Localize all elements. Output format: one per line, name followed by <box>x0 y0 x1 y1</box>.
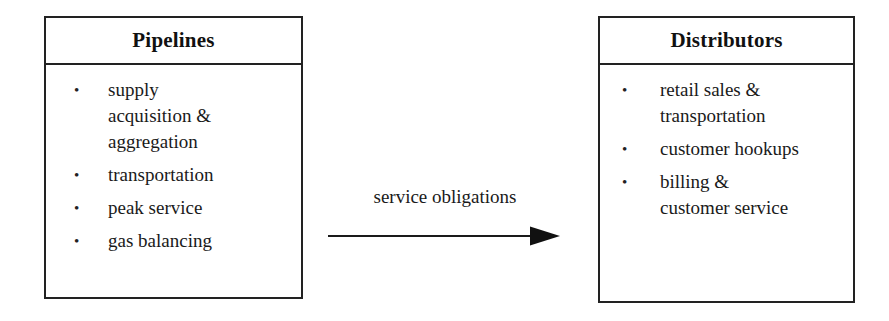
diagram-canvas: Pipelines • supply acquisition & aggrega… <box>0 0 889 321</box>
bullet-point-icon: • <box>56 195 108 221</box>
list-item: • peak service <box>56 195 291 221</box>
list-item: • customer hookups <box>610 136 843 162</box>
bullet-point-icon: • <box>56 162 108 188</box>
list-item: • retail sales & transportation <box>610 77 843 129</box>
list-item-label: retail sales & transportation <box>660 77 843 129</box>
bullet-point-icon: • <box>56 77 108 103</box>
list-item-label: gas balancing <box>108 228 291 254</box>
arrow-right-icon <box>320 223 570 249</box>
bullet-point-icon: • <box>610 169 660 195</box>
list-item: • supply acquisition & aggregation <box>56 77 291 155</box>
entity-box-pipelines: Pipelines • supply acquisition & aggrega… <box>44 16 303 299</box>
list-item-label: supply acquisition & aggregation <box>108 77 291 155</box>
entity-box-distributors: Distributors • retail sales & transporta… <box>598 16 855 303</box>
bullet-point-icon: • <box>610 136 660 162</box>
list-item-label: billing & customer service <box>660 169 843 221</box>
list-item: • transportation <box>56 162 291 188</box>
bullet-list-pipelines: • supply acquisition & aggregation • tra… <box>56 77 291 254</box>
entity-body-distributors: • retail sales & transportation • custom… <box>600 65 853 301</box>
list-item-label: transportation <box>108 162 291 188</box>
list-item: • billing & customer service <box>610 169 843 221</box>
list-item: • gas balancing <box>56 228 291 254</box>
entity-title-distributors: Distributors <box>600 18 853 65</box>
bullet-list-distributors: • retail sales & transportation • custom… <box>610 77 843 221</box>
bullet-point-icon: • <box>56 228 108 254</box>
connector-service-obligations: service obligations <box>320 185 570 255</box>
connector-label: service obligations <box>320 185 570 209</box>
entity-title-pipelines: Pipelines <box>46 18 301 65</box>
bullet-point-icon: • <box>610 77 660 103</box>
list-item-label: peak service <box>108 195 291 221</box>
list-item-label: customer hookups <box>660 136 843 162</box>
entity-body-pipelines: • supply acquisition & aggregation • tra… <box>46 65 301 297</box>
